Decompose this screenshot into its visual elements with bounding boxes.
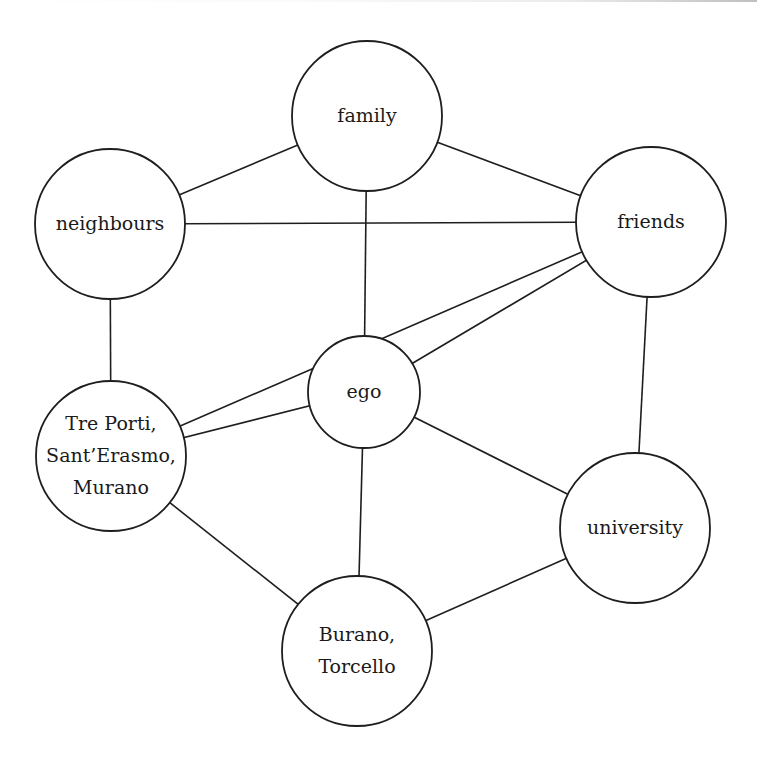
node-label-burano: Burano,	[319, 623, 395, 645]
node-label-friends: friends	[617, 210, 685, 232]
node-circle-burano	[282, 576, 432, 726]
node-neighbours: neighbours	[35, 149, 185, 299]
node-label-university: university	[587, 516, 683, 538]
node-label-treporti: Tre Porti,	[65, 412, 156, 434]
node-label-burano: Torcello	[318, 655, 395, 677]
node-label-treporti: Sant’Erasmo,	[46, 444, 176, 466]
node-label-family: family	[337, 104, 397, 126]
node-burano: Burano,Torcello	[282, 576, 432, 726]
node-label-treporti: Murano	[73, 476, 149, 498]
node-treporti: Tre Porti,Sant’Erasmo,Murano	[36, 381, 186, 531]
node-ego: ego	[308, 336, 420, 448]
node-family: family	[292, 41, 442, 191]
edge-neighbours-friends	[110, 222, 651, 224]
node-label-neighbours: neighbours	[56, 212, 165, 234]
node-university: university	[560, 453, 710, 603]
nodes-layer: familyneighboursfriendsegoTre Porti,Sant…	[35, 41, 726, 726]
node-friends: friends	[576, 147, 726, 297]
node-label-ego: ego	[347, 380, 382, 402]
network-diagram: familyneighboursfriendsegoTre Porti,Sant…	[0, 0, 757, 766]
